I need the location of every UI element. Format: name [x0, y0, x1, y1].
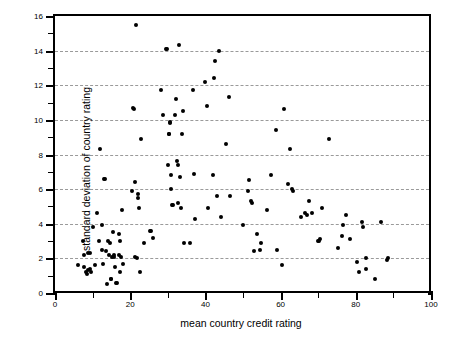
data-point: [118, 239, 122, 243]
data-point: [178, 175, 182, 179]
data-point: [174, 97, 178, 101]
data-point: [100, 223, 104, 227]
data-point: [89, 270, 93, 274]
data-point: [169, 173, 173, 177]
data-point: [250, 201, 254, 205]
scatter-plot-figure: 0246810121416 020406080100 standard devi…: [0, 0, 449, 338]
y-axis-tick-label: 8: [39, 150, 43, 159]
x-axis-title: mean country credit rating: [53, 317, 429, 329]
data-point: [247, 178, 251, 182]
data-point: [188, 241, 192, 245]
x-axis-tick-label: 80: [351, 300, 360, 309]
x-axis-tick-label: 60: [276, 300, 285, 309]
y-axis-tick: [46, 189, 55, 191]
y-axis-tick: [48, 172, 55, 173]
data-point: [361, 225, 365, 229]
data-point: [355, 260, 359, 264]
data-point: [138, 270, 142, 274]
x-axis-tick: [356, 291, 358, 300]
data-point: [286, 182, 290, 186]
data-point: [137, 206, 141, 210]
x-axis-tick: [93, 291, 94, 298]
data-point: [142, 241, 146, 245]
data-point: [305, 213, 309, 217]
data-point: [76, 263, 80, 267]
data-point: [108, 241, 112, 245]
gridline: [55, 120, 429, 121]
y-axis-tick-label: 12: [34, 81, 43, 90]
data-point: [167, 132, 171, 136]
data-point: [192, 172, 196, 176]
data-point: [211, 173, 215, 177]
data-point: [82, 253, 86, 257]
data-point: [364, 256, 368, 260]
x-axis-tick-label: 0: [53, 300, 57, 309]
data-point: [291, 189, 295, 193]
data-point: [111, 230, 115, 234]
data-point: [132, 107, 136, 111]
data-point: [217, 49, 221, 53]
data-point: [212, 76, 216, 80]
data-point: [135, 256, 139, 260]
data-point: [171, 203, 175, 207]
data-point: [364, 267, 368, 271]
x-axis-tick: [393, 291, 394, 298]
y-axis-tick: [46, 16, 55, 18]
data-point: [109, 277, 113, 281]
data-point: [95, 211, 99, 215]
data-point: [182, 241, 186, 245]
data-point: [165, 47, 169, 51]
y-axis-tick: [48, 276, 55, 277]
data-point: [176, 201, 180, 205]
data-point: [159, 88, 163, 92]
y-axis-tick: [48, 241, 55, 242]
y-axis-tick-label: 0: [39, 289, 43, 298]
y-axis-tick: [46, 120, 55, 122]
data-point: [117, 232, 121, 236]
y-axis-tick-label: 10: [34, 115, 43, 124]
data-point: [161, 113, 165, 117]
data-point: [136, 196, 140, 200]
y-axis-tick-label: 6: [39, 185, 43, 194]
data-point: [180, 132, 184, 136]
data-point: [265, 208, 269, 212]
data-point: [357, 270, 361, 274]
y-axis-tick: [46, 51, 55, 53]
gridline: [55, 51, 429, 52]
y-axis-tick-label: 2: [39, 254, 43, 263]
data-point: [113, 265, 117, 269]
y-axis-tick-label: 16: [34, 12, 43, 21]
data-point: [282, 107, 286, 111]
data-point: [97, 239, 101, 243]
data-point: [179, 206, 183, 210]
gridline: [55, 155, 429, 156]
data-point: [120, 208, 124, 212]
data-point: [134, 23, 138, 27]
data-point: [119, 255, 123, 259]
data-point: [327, 137, 331, 141]
y-axis-tick-label: 14: [34, 46, 43, 55]
data-point: [310, 211, 314, 215]
data-point: [386, 256, 390, 260]
data-point: [169, 187, 173, 191]
data-point: [115, 281, 119, 285]
data-point: [177, 43, 181, 47]
x-axis-tick: [243, 291, 244, 298]
y-axis-tick-label: 4: [39, 219, 43, 228]
data-point: [224, 142, 228, 146]
data-point: [288, 147, 292, 151]
y-axis-tick: [46, 224, 55, 226]
y-axis-tick: [46, 85, 55, 87]
y-axis-tick: [46, 155, 55, 157]
x-axis-tick-label: 20: [126, 300, 135, 309]
x-axis-tick: [431, 291, 433, 300]
y-axis-tick: [48, 206, 55, 207]
data-point: [118, 270, 122, 274]
data-point: [246, 189, 250, 193]
data-point: [227, 95, 231, 99]
data-point: [275, 248, 279, 252]
plot-area: 0246810121416 020406080100: [53, 16, 429, 293]
x-axis-tick: [55, 291, 57, 300]
data-point: [336, 246, 340, 250]
data-point: [344, 213, 348, 217]
